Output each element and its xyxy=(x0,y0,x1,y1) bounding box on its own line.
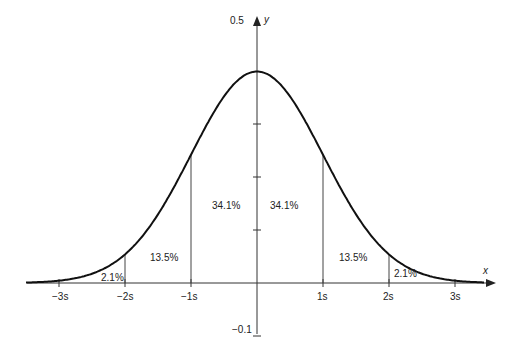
region-label-neg3-neg2: 2.1% xyxy=(101,272,124,283)
region-label-0-1: 34.1% xyxy=(270,200,298,211)
x-tick-label-1s: 1s xyxy=(317,291,328,302)
x-axis-arrow-icon xyxy=(486,279,496,287)
x-tick-label-neg3s: −3s xyxy=(52,291,68,302)
y-top-tick-label: 0.5 xyxy=(230,15,244,26)
x-tick-label-neg1s: −1s xyxy=(181,291,197,302)
y-bottom-tick-label: −0.1 xyxy=(232,324,252,335)
region-label-neg2-neg1: 13.5% xyxy=(150,252,178,263)
normal-distribution-chart xyxy=(0,0,524,348)
x-tick-label-3s: 3s xyxy=(450,291,461,302)
x-tick-label-neg2s: −2s xyxy=(117,291,133,302)
region-label-neg1-0: 34.1% xyxy=(212,200,240,211)
x-tick-label-2s: 2s xyxy=(383,291,394,302)
x-axis-label: x xyxy=(483,265,488,276)
region-label-1-2: 13.5% xyxy=(339,252,367,263)
y-axis-arrow-icon xyxy=(253,16,261,26)
y-axis-label: y xyxy=(264,14,269,25)
region-label-2-3: 2.1% xyxy=(394,268,417,279)
